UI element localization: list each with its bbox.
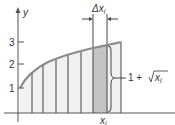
y-axis-arrow-icon (16, 7, 21, 13)
delta-x-label: Δxi (91, 3, 106, 15)
y-tick-2: 2 (9, 59, 15, 70)
height-label: 1 + (128, 72, 142, 83)
delta-arrows (82, 17, 118, 21)
y-tick-1: 1 (9, 83, 15, 94)
y-axis-label: y (22, 7, 29, 18)
shaded-strip (93, 46, 107, 114)
xi-label: xi (99, 115, 107, 125)
riemann-sum-diagram: 1 2 3 y Δxi 1 + xi xi (0, 0, 175, 125)
y-tick-3: 3 (9, 37, 15, 48)
height-label-root: xi (154, 72, 162, 84)
